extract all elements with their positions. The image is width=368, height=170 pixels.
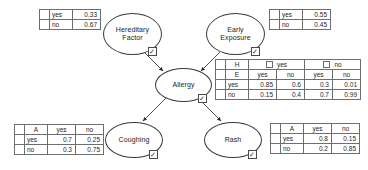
probability-value: 0.15 <box>249 90 277 100</box>
table-early-exposure-prior[interactable]: yes 0.55 no 0.45 <box>269 9 331 30</box>
probability-value: 0.7 <box>305 90 333 100</box>
table-header-row-e: E yes no yes no <box>216 70 361 80</box>
h-state-no-cell: no <box>305 60 361 70</box>
parent-e-label: E <box>226 70 249 80</box>
parent-label: A <box>281 124 304 134</box>
e-state-label: no <box>277 70 305 80</box>
e-state-label: no <box>333 70 361 80</box>
row-stub-cell <box>40 10 50 20</box>
probability-value: 0.67 <box>73 20 101 30</box>
node-label-line1: Rash <box>225 136 242 143</box>
table-row[interactable]: no 0.3 0.75 <box>15 145 104 155</box>
state-label: yes <box>226 80 249 90</box>
state-label: no <box>281 144 304 154</box>
row-stub-cell <box>15 135 25 145</box>
table-row[interactable]: yes 0.85 0.6 0.3 0.01 <box>216 80 361 90</box>
probability-value: 0.75 <box>76 145 104 155</box>
probability-value: 0.8 <box>304 134 332 144</box>
h-state-yes-cell: yes <box>249 60 305 70</box>
row-stub-cell <box>216 90 226 100</box>
node-label-line1: Allergy <box>172 81 194 88</box>
node-label-line1: Hereditary <box>116 26 149 33</box>
row-stub-cell <box>270 10 280 20</box>
table-row[interactable]: no 0.2 0.85 <box>271 144 360 154</box>
row-stub-cell <box>270 20 280 30</box>
table-row[interactable]: no 0.45 <box>270 20 331 30</box>
node-checkbox[interactable]: ✓ <box>198 94 207 103</box>
node-allergy[interactable]: Allergy ✓ <box>155 68 212 102</box>
state-label: no <box>25 145 48 155</box>
table-rash-cpt[interactable]: A yes no yes 0.8 0.15 no 0.2 0.85 <box>270 123 360 154</box>
node-checkbox[interactable]: ✓ <box>148 47 157 56</box>
checkbox-mark: ✓ <box>199 95 205 102</box>
row-stub-cell <box>271 124 281 134</box>
table-row[interactable]: no 0.67 <box>40 20 101 30</box>
table-header-row-h: H yes no <box>216 60 361 70</box>
node-label: Hereditary Factor <box>113 26 152 42</box>
probability-value: 0.25 <box>76 135 104 145</box>
probability-value: 0.01 <box>333 80 361 90</box>
table-row[interactable]: no 0.15 0.4 0.7 0.99 <box>216 90 361 100</box>
checkbox-mark: ✓ <box>149 48 155 55</box>
table-row[interactable]: yes 0.33 <box>40 10 101 20</box>
probability-value: 0.45 <box>303 20 331 30</box>
table-coughing-cpt[interactable]: A yes no yes 0.7 0.25 no 0.3 0.75 <box>14 124 104 155</box>
edge-allergy-to-coughing <box>143 98 166 121</box>
table-header-row: A yes no <box>271 124 360 134</box>
node-hereditary-factor[interactable]: Hereditary Factor ✓ <box>103 13 162 55</box>
checkbox-mark: ✓ <box>150 151 156 158</box>
node-label: Early Exposure <box>217 26 253 42</box>
state-label: no <box>50 20 73 30</box>
node-checkbox[interactable]: ✓ <box>149 150 158 159</box>
node-label: Rash <box>222 136 245 144</box>
table-allergy-cpt[interactable]: H yes no E yes no yes no yes 0.85 <box>215 59 361 100</box>
node-checkbox[interactable]: ✓ <box>251 47 260 56</box>
table-row[interactable]: yes 0.55 <box>270 10 331 20</box>
row-stub-cell <box>216 70 226 80</box>
table-row[interactable]: yes 0.7 0.25 <box>15 135 104 145</box>
bayesian-network-canvas: Hereditary Factor ✓ Early Exposure ✓ All… <box>0 0 368 170</box>
h-state-label: no <box>334 61 341 68</box>
probability-value: 0.2 <box>304 144 332 154</box>
table-hereditary-prior[interactable]: yes 0.33 no 0.67 <box>39 9 101 30</box>
probability-value: 0.7 <box>48 135 76 145</box>
row-stub-cell <box>15 125 25 135</box>
row-stub-cell <box>271 134 281 144</box>
state-label: yes <box>280 10 303 20</box>
checkbox-mark: ✓ <box>249 151 255 158</box>
checkbox-mark: ✓ <box>252 48 258 55</box>
row-stub-cell <box>40 20 50 30</box>
parent-h-label: H <box>226 60 249 70</box>
probability-value: 0.33 <box>73 10 101 20</box>
node-label: Allergy <box>169 81 197 89</box>
probability-value: 0.6 <box>277 80 305 90</box>
probability-value: 0.55 <box>303 10 331 20</box>
checkbox-icon[interactable] <box>266 61 273 68</box>
row-stub-cell <box>15 145 25 155</box>
node-rash[interactable]: Rash ✓ <box>204 122 262 158</box>
column-header: no <box>76 125 104 135</box>
node-label-line2: Exposure <box>220 34 250 41</box>
column-header: yes <box>304 124 332 134</box>
node-label-line1: Early <box>227 26 243 33</box>
table-row[interactable]: yes 0.8 0.15 <box>271 134 360 144</box>
probability-value: 0.99 <box>333 90 361 100</box>
node-early-exposure[interactable]: Early Exposure ✓ <box>206 13 265 55</box>
probability-value: 0.85 <box>249 80 277 90</box>
node-label-line2: Factor <box>122 34 142 41</box>
state-label: yes <box>50 10 73 20</box>
column-header: no <box>332 124 360 134</box>
e-state-label: yes <box>249 70 277 80</box>
row-stub-cell <box>216 80 226 90</box>
probability-value: 0.3 <box>305 80 333 90</box>
parent-label: A <box>25 125 48 135</box>
probability-value: 0.15 <box>332 134 360 144</box>
row-stub-cell <box>216 60 226 70</box>
probability-value: 0.85 <box>332 144 360 154</box>
checkbox-icon[interactable] <box>323 61 330 68</box>
node-coughing[interactable]: Coughing ✓ <box>105 122 163 158</box>
state-label: no <box>280 20 303 30</box>
table-header-row: A yes no <box>15 125 104 135</box>
node-label-line1: Coughing <box>119 136 150 143</box>
node-checkbox[interactable]: ✓ <box>248 150 257 159</box>
